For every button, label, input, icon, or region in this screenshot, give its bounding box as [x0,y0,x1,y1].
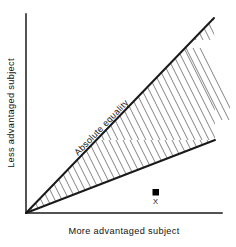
absolute-equality-label: Absolute equality [72,97,130,157]
lower-boundary-line [26,140,215,213]
x-axis-label: More advantaged subject [68,226,179,236]
absolute-equality-line [26,18,214,213]
point-label-x: X [153,197,158,206]
figure-canvas: X Absolute equality Less advantaged subj… [0,0,236,247]
point-marker-x [153,189,160,196]
equality-wedge-figure: X Absolute equality Less advantaged subj… [0,0,236,247]
y-axis-label: Less advantaged subject [6,58,16,168]
